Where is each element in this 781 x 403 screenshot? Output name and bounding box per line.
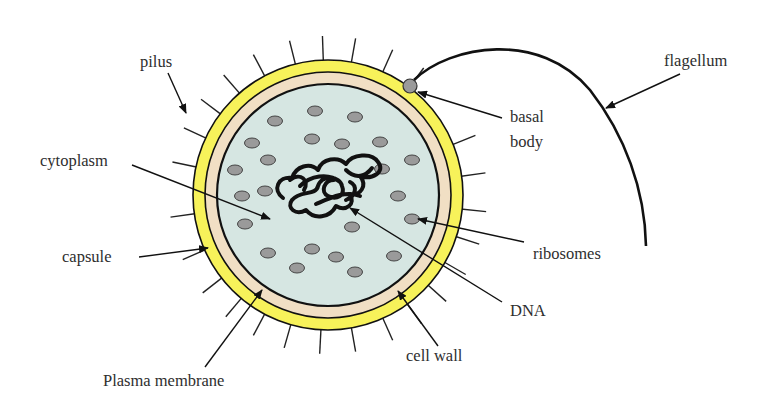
ribosome — [268, 116, 283, 126]
arrow-flagellum — [606, 74, 680, 108]
ribosome — [335, 139, 350, 149]
label-capsule: capsule — [62, 247, 111, 266]
ribosome — [305, 134, 320, 144]
ribosome — [405, 155, 420, 165]
label-body: body — [510, 132, 544, 151]
ribosome — [261, 155, 276, 165]
arrow-cell_wall — [398, 291, 438, 346]
ribosome — [308, 106, 323, 116]
ribosome — [258, 186, 273, 196]
label-cytoplasm: cytoplasm — [40, 151, 108, 170]
label-pilus: pilus — [140, 52, 172, 71]
ribosome — [290, 263, 305, 273]
ribosome — [348, 267, 363, 277]
ribosome — [245, 138, 260, 148]
label-ribosomes: ribosomes — [533, 244, 601, 263]
ribosome — [305, 244, 320, 254]
ribosome — [348, 112, 363, 122]
label-plasma-membrane: Plasma membrane — [103, 371, 224, 390]
ribosome — [235, 191, 250, 201]
ribosome — [238, 219, 253, 229]
ribosome — [261, 248, 276, 258]
bacterial-cell-diagram: pilus flagellum basal body cytoplasm cap… — [0, 0, 781, 403]
label-cell-wall: cell wall — [406, 346, 463, 365]
ribosome — [387, 251, 402, 261]
ribosome — [373, 137, 388, 147]
label-basal: basal — [510, 107, 544, 126]
arrow-pilus — [168, 73, 186, 113]
ribosome — [405, 214, 420, 224]
ribosome — [329, 252, 344, 262]
label-flagellum: flagellum — [664, 51, 727, 70]
arrow-plasma_membrane — [205, 290, 262, 367]
ribosome — [391, 191, 406, 201]
ribosome — [345, 222, 360, 232]
ribosome — [228, 165, 243, 175]
label-dna: DNA — [510, 301, 546, 320]
basal-body — [403, 79, 417, 93]
